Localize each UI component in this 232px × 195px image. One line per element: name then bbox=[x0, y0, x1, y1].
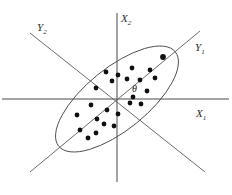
x1-axis-label: X1 bbox=[196, 108, 206, 122]
rotation-scatter-figure: X2 Y2 Y1 X1 θ bbox=[0, 0, 232, 195]
y1-axis-label-subscript: 1 bbox=[201, 48, 205, 56]
data-point bbox=[116, 73, 121, 78]
x2-axis-label-text: X bbox=[121, 12, 128, 24]
data-point bbox=[110, 79, 115, 84]
data-point bbox=[116, 112, 121, 117]
data-point bbox=[94, 131, 99, 136]
x2-axis-label: X2 bbox=[121, 13, 131, 27]
data-point bbox=[145, 89, 150, 94]
data-point bbox=[102, 122, 107, 127]
y2-axis-label-subscript: 2 bbox=[43, 28, 47, 36]
data-point bbox=[148, 68, 153, 73]
data-point bbox=[95, 117, 100, 122]
x2-axis-label-subscript: 2 bbox=[128, 19, 132, 27]
x1-axis-label-text: X bbox=[196, 107, 203, 119]
data-point bbox=[112, 124, 117, 129]
data-point bbox=[160, 54, 166, 60]
data-point bbox=[94, 86, 99, 91]
y2-axis-label: Y2 bbox=[37, 22, 47, 36]
data-point bbox=[139, 102, 144, 107]
data-point bbox=[125, 77, 130, 82]
data-point bbox=[130, 66, 135, 71]
data-point bbox=[89, 103, 94, 108]
y1-axis-line bbox=[30, 31, 200, 172]
x1-axis-label-subscript: 1 bbox=[203, 114, 207, 122]
data-point bbox=[75, 113, 80, 118]
data-point bbox=[104, 70, 109, 75]
data-point bbox=[86, 136, 91, 141]
data-point bbox=[128, 101, 133, 106]
data-point bbox=[153, 76, 158, 81]
theta-angle-label: θ bbox=[132, 84, 137, 94]
figure-canvas bbox=[0, 0, 232, 195]
y1-axis-label: Y1 bbox=[195, 42, 205, 56]
data-point bbox=[105, 108, 110, 113]
data-point bbox=[78, 128, 83, 133]
data-point bbox=[138, 78, 143, 83]
data-point bbox=[131, 95, 136, 100]
